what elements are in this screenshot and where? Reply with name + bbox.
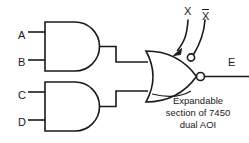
output-label-e: E	[228, 57, 235, 68]
wire-and-top-to-nor	[100, 47, 149, 63]
and-gate-bottom-body	[45, 82, 100, 131]
input-label-a: A	[18, 30, 25, 41]
nor-output-bubble	[197, 73, 205, 81]
caption-line-3: dual AOI	[148, 119, 248, 131]
caption-block: Expandable section of 7450 dual AOI	[148, 95, 248, 131]
and-gate-bottom	[28, 82, 148, 131]
expander-label-x: X	[184, 6, 191, 17]
caption-line-1: Expandable	[148, 95, 248, 107]
schematic-canvas: A B C D E X X Expandable section of 7450…	[0, 0, 249, 143]
expander-input-group	[174, 20, 206, 61]
expander-label-xbar: X	[202, 9, 209, 22]
wire-and-bottom-to-nor	[100, 91, 149, 107]
and-gate-top-body	[45, 22, 100, 71]
and-gate-top	[28, 22, 148, 71]
expander-input-bubble	[187, 54, 194, 61]
input-label-d: D	[18, 117, 26, 128]
input-label-b: B	[18, 57, 25, 68]
caption-line-2: section of 7450	[148, 107, 248, 119]
wire-x	[178, 20, 189, 51]
wire-xbar	[194, 20, 206, 55]
input-label-c: C	[18, 90, 26, 101]
expander-label-xbar-wrapper: X	[202, 6, 209, 24]
